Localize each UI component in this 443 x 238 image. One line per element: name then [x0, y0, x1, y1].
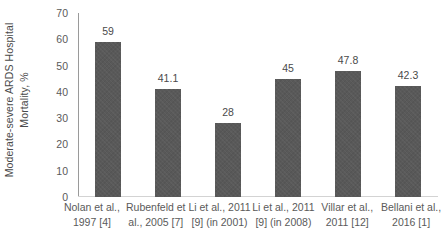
bar[interactable] [155, 89, 181, 197]
x-axis-label-line-2: 1997 [4] [60, 215, 124, 230]
bar-value-label: 41.1 [158, 73, 178, 84]
x-axis-label: Rubenfeld etal., 2005 [7] [124, 200, 188, 230]
bar-group: 42.3 [378, 8, 438, 197]
bar-group: 59 [78, 8, 138, 197]
x-axis-label-line-2: [9] (in 2001) [188, 215, 252, 230]
x-axis-label-line-1: Li et al., 2011 [252, 200, 316, 215]
x-axis-label-line-1: Villar et al., [315, 200, 379, 215]
x-axis-label-line-1: Bellani et al., [379, 200, 443, 215]
y-axis-title: Moderate-severe ARDS Hospital Mortality,… [0, 0, 34, 200]
x-axis-label-line-2: 2011 [12] [315, 215, 379, 230]
y-axis-title-line-2: Mortality, % [17, 23, 32, 178]
bar-value-label: 47.8 [338, 55, 358, 66]
x-axis-label-line-2: [9] (in 2008) [252, 215, 316, 230]
x-axis-category-labels: Nolan et al.,1997 [4]Rubenfeld etal., 20… [60, 200, 443, 238]
x-axis-label-line-1: Li et al., 2011 [188, 200, 252, 215]
y-axis-tick-40: 40 [56, 86, 68, 97]
bar-group: 41.1 [138, 8, 198, 197]
x-axis-label-line-2: 2016 [1] [379, 215, 443, 230]
y-axis-tick-10: 10 [56, 165, 68, 176]
bars-layer: 5941.1284547.842.3 [78, 8, 438, 197]
y-axis-title-line-1: Moderate-severe ARDS Hospital [2, 23, 17, 178]
x-axis-label: Villar et al.,2011 [12] [315, 200, 379, 230]
bar[interactable] [95, 42, 121, 197]
bar[interactable] [215, 123, 241, 197]
x-axis-label: Bellani et al.,2016 [1] [379, 200, 443, 230]
y-axis-tick-30: 30 [56, 113, 68, 124]
bar-group: 45 [258, 8, 318, 197]
bar-value-label: 28 [222, 107, 234, 118]
x-axis-label-line-1: Rubenfeld et [124, 200, 188, 215]
bar-group: 47.8 [318, 8, 378, 197]
y-axis-tick-70: 70 [56, 8, 68, 19]
bar-chart: Moderate-severe ARDS Hospital Mortality,… [0, 0, 443, 238]
y-axis-tick-20: 20 [56, 139, 68, 150]
bar[interactable] [275, 79, 301, 197]
x-axis-label: Li et al., 2011[9] (in 2008) [252, 200, 316, 230]
x-axis-label-line-1: Nolan et al., [60, 200, 124, 215]
x-axis-label: Nolan et al.,1997 [4] [60, 200, 124, 230]
bar-group: 28 [198, 8, 258, 197]
y-axis-tick-labels: 706050403020100 [36, 0, 72, 205]
x-axis-label-line-2: al., 2005 [7] [124, 215, 188, 230]
plot-area: 5941.1284547.842.3 [78, 8, 438, 197]
bar[interactable] [335, 71, 361, 197]
bar-value-label: 59 [102, 26, 114, 37]
y-axis-tick-60: 60 [56, 34, 68, 45]
bar-value-label: 42.3 [398, 70, 418, 81]
bar[interactable] [395, 86, 421, 197]
y-axis-tick-50: 50 [56, 60, 68, 71]
x-axis-label: Li et al., 2011[9] (in 2001) [188, 200, 252, 230]
bar-value-label: 45 [282, 63, 294, 74]
